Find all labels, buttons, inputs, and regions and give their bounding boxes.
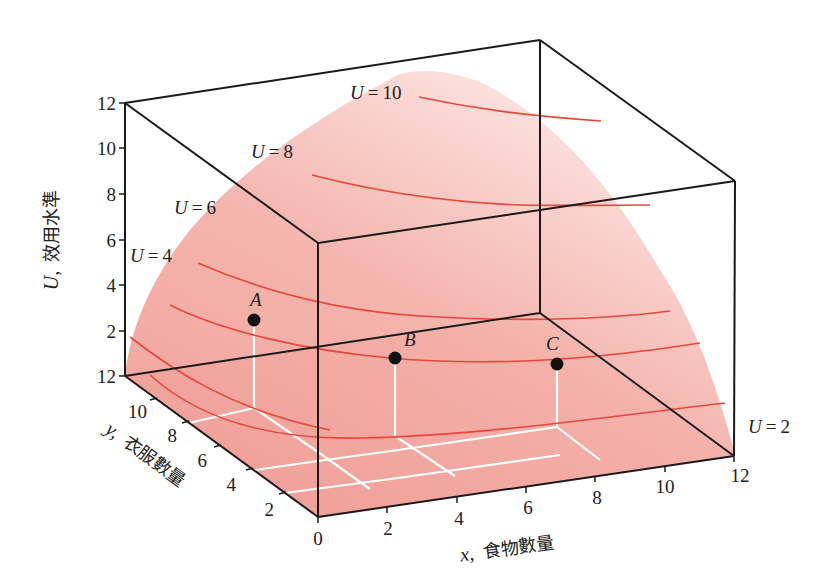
- z-axis-tick-labels: 12 10 8 6 4 2 12: [97, 93, 117, 387]
- contour-label-u8: U=8: [251, 141, 293, 162]
- z-axis-title: U, 效用水準: [40, 190, 62, 290]
- point-b-marker: [389, 352, 402, 365]
- contour-label-u6: U=6: [174, 197, 216, 218]
- x-tick-4: 4: [454, 508, 464, 529]
- contour-label-u10: U=10: [350, 82, 401, 103]
- z-axis-var: U,: [40, 271, 62, 290]
- contour-label-u4: U=4: [130, 245, 172, 266]
- point-b-label: B: [404, 329, 416, 350]
- utility-surface-chart: 12 10 8 6 4 2 12 U, 效用水準 10 8 6 4 2 y, 衣…: [0, 0, 840, 585]
- point-a-marker: [248, 314, 261, 327]
- x-tick-2: 2: [383, 518, 393, 539]
- x-tick-0: 0: [313, 528, 323, 549]
- x-tick-12: 12: [731, 465, 750, 486]
- point-c-label: C: [546, 333, 559, 354]
- svg-text:U, 效用水準: U, 效用水準: [40, 190, 62, 290]
- y-tick-4: 4: [227, 474, 237, 495]
- svg-text:x, 食物數量: x, 食物數量: [458, 531, 556, 566]
- z-axis-label: 效用水準: [41, 190, 62, 262]
- y-tick-6: 6: [198, 450, 208, 471]
- x-tick-6: 6: [523, 497, 533, 518]
- y-tick-8: 8: [168, 425, 178, 446]
- y-axis-label: 衣服數量: [119, 431, 190, 490]
- z-tick-6: 6: [107, 230, 117, 251]
- z-tick-12: 12: [97, 93, 116, 114]
- y-tick-12: 12: [97, 366, 116, 387]
- y-axis-var: y,: [99, 416, 124, 443]
- y-tick-10: 10: [128, 401, 147, 422]
- z-tick-10: 10: [97, 138, 116, 159]
- z-tick-4: 4: [107, 275, 117, 296]
- y-tick-2: 2: [265, 499, 275, 520]
- z-tick-2: 2: [107, 321, 117, 342]
- x-axis-label: 食物數量: [481, 532, 555, 563]
- contour-label-u2: U=2: [748, 416, 790, 437]
- x-axis-var: x,: [458, 542, 476, 566]
- point-a-label: A: [248, 289, 262, 310]
- z-tick-8: 8: [107, 184, 117, 205]
- point-c-marker: [551, 358, 564, 371]
- x-tick-10: 10: [656, 476, 675, 497]
- utility-surface: [125, 71, 734, 517]
- x-axis-title: x, 食物數量: [458, 531, 556, 566]
- x-tick-8: 8: [592, 487, 602, 508]
